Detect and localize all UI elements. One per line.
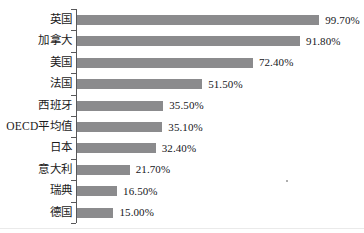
category-label: 瑞典	[50, 185, 72, 197]
category-label: 日本	[50, 143, 72, 155]
category-label: 意大利	[38, 164, 72, 176]
bar-value-label: 21.70%	[136, 164, 171, 175]
bar-value-label: 35.10%	[168, 122, 203, 133]
category-label: 法国	[50, 78, 72, 90]
bar-row[interactable]: 日本32.40%	[0, 137, 364, 159]
scan-artifact-line	[0, 228, 364, 229]
bar-row[interactable]: 英国99.70%	[0, 9, 364, 31]
bar-value-label: 35.50%	[169, 100, 204, 111]
bar[interactable]	[77, 79, 202, 89]
bar-row[interactable]: 加拿大91.80%	[0, 30, 364, 52]
bar-row[interactable]: 西班牙35.50%	[0, 95, 364, 117]
bar-row[interactable]: 意大利21.70%	[0, 159, 364, 181]
bar-row[interactable]: 德国15.00%	[0, 202, 364, 224]
bar[interactable]	[77, 186, 117, 196]
bar-container: 16.50%	[77, 186, 158, 196]
bar-container: 51.50%	[77, 79, 243, 89]
scan-speck	[286, 180, 288, 182]
bar-container: 21.70%	[77, 165, 170, 175]
bar-value-label: 51.50%	[208, 79, 243, 90]
bar-value-label: 72.40%	[259, 57, 294, 68]
bar-value-label: 99.70%	[325, 15, 360, 26]
bar[interactable]	[77, 165, 130, 175]
plot-area: 英国99.70%加拿大91.80%美国72.40%法国51.50%西班牙35.5…	[0, 0, 364, 233]
bar[interactable]	[77, 36, 300, 46]
bar-container: 72.40%	[77, 58, 293, 68]
category-label: 英国	[50, 14, 72, 26]
category-label: 美国	[50, 57, 72, 69]
category-label: OECD平均值	[6, 121, 72, 133]
bar-value-label: 15.00%	[119, 207, 154, 218]
bar-container: 91.80%	[77, 36, 341, 46]
bar-value-label: 32.40%	[162, 143, 197, 154]
bar[interactable]	[77, 101, 163, 111]
bar[interactable]	[77, 15, 319, 25]
bar-value-label: 91.80%	[306, 36, 341, 47]
horizontal-bar-chart: 英国99.70%加拿大91.80%美国72.40%法国51.50%西班牙35.5…	[0, 0, 364, 233]
bar[interactable]	[77, 208, 113, 218]
category-label: 西班牙	[38, 100, 72, 112]
bar-container: 99.70%	[77, 15, 360, 25]
bar[interactable]	[77, 122, 162, 132]
bar-row[interactable]: 法国51.50%	[0, 73, 364, 95]
bar[interactable]	[77, 58, 253, 68]
bar-container: 35.50%	[77, 101, 204, 111]
bar-row[interactable]: 美国72.40%	[0, 52, 364, 74]
bar-row[interactable]: 瑞典16.50%	[0, 180, 364, 202]
bar-value-label: 16.50%	[123, 186, 158, 197]
category-label: 加拿大	[38, 36, 72, 48]
category-label: 德国	[50, 207, 72, 219]
bar[interactable]	[77, 143, 156, 153]
bar-container: 32.40%	[77, 143, 196, 153]
bar-container: 35.10%	[77, 122, 203, 132]
bar-container: 15.00%	[77, 208, 154, 218]
bar-row[interactable]: OECD平均值35.10%	[0, 116, 364, 138]
